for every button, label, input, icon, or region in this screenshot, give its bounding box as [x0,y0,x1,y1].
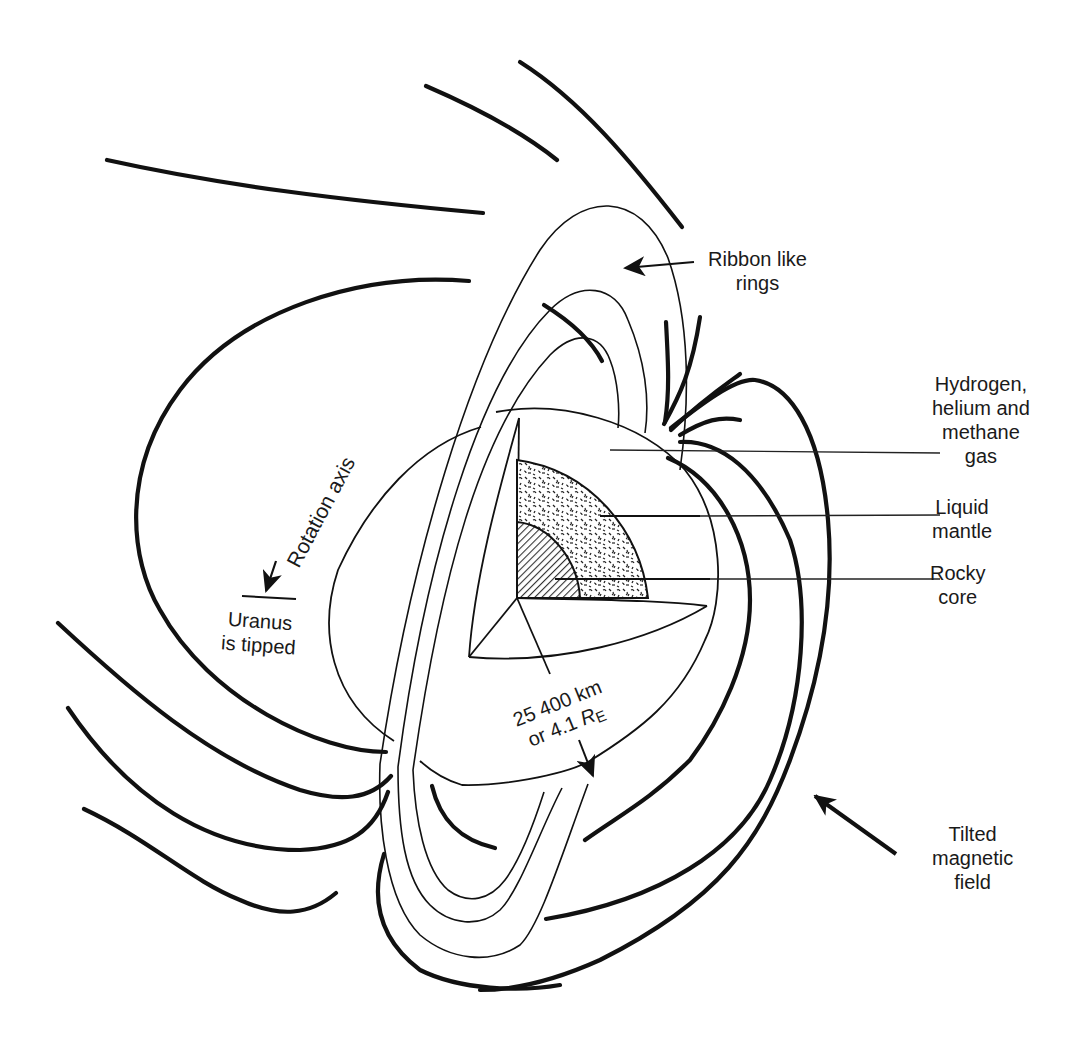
arrow-up-left-icon [815,796,896,854]
tipped-baseline [242,596,296,599]
mantle-leader [700,515,940,516]
atmosphere-leader [610,450,940,453]
mantle-label: Liquid mantle [932,495,992,543]
diagram-canvas [0,0,1085,1049]
tipped-label: Uranus is tipped [220,606,298,659]
arrow-down-icon [266,561,276,591]
magnetic-field-lines [58,62,830,990]
atmosphere-label: Hydrogen, helium and methane gas [932,372,1030,468]
arrow-left-icon [625,262,694,268]
uranus-diagram: Ribbon like rings Hydrogen, helium and m… [0,0,1085,1049]
rings-label: Ribbon like rings [708,247,807,295]
arrow-down-icon [579,740,593,776]
magnetic-field-label: Tilted magnetic field [932,822,1013,894]
core-label: Rocky core [930,561,986,609]
